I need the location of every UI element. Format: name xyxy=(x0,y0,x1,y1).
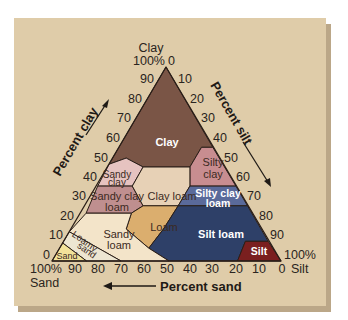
svg-text:80: 80 xyxy=(91,262,105,276)
label-silty-clay-2: clay xyxy=(203,168,223,180)
svg-text:40: 40 xyxy=(213,131,227,145)
svg-text:80: 80 xyxy=(259,209,273,223)
svg-text:10: 10 xyxy=(49,228,63,242)
svg-text:10: 10 xyxy=(178,72,192,86)
svg-text:30: 30 xyxy=(72,189,86,203)
corner-clay-percent: 100% xyxy=(133,54,165,68)
soil-texture-triangle: Clay Silty clay Sandy clay Sandy clay lo… xyxy=(0,0,348,320)
sand-axis-ticks: 90 80 70 60 50 40 30 20 10 0 xyxy=(68,262,285,276)
label-silty-clay-loam-2: loam xyxy=(206,197,231,209)
arrow-down-icon xyxy=(264,178,271,187)
corner-clay-name: Clay xyxy=(138,41,164,55)
svg-text:50: 50 xyxy=(94,151,108,165)
svg-text:0: 0 xyxy=(43,248,50,262)
label-sand: Sand xyxy=(56,251,77,261)
corner-sand-percent: 100% xyxy=(30,262,62,276)
label-silt-loam: Silt loam xyxy=(198,228,244,240)
svg-text:50: 50 xyxy=(224,151,238,165)
svg-text:50: 50 xyxy=(160,262,174,276)
svg-text:30: 30 xyxy=(201,111,215,125)
percent-sand-title: Percent sand xyxy=(160,279,242,294)
svg-text:60: 60 xyxy=(236,170,250,184)
corner-sand-name: Sand xyxy=(30,276,59,290)
apex-tick: 0 xyxy=(168,54,175,68)
corner-silt-percent: 100% xyxy=(284,248,316,262)
svg-text:40: 40 xyxy=(83,170,97,184)
arrow-left-icon xyxy=(103,282,112,290)
label-silty-clay: Silty xyxy=(203,156,224,168)
svg-text:10: 10 xyxy=(252,262,266,276)
percent-clay-axis: Percent clay xyxy=(50,99,109,179)
corner-silt-name: Silt xyxy=(291,262,309,276)
svg-text:70: 70 xyxy=(247,189,261,203)
svg-text:60: 60 xyxy=(137,262,151,276)
svg-text:90: 90 xyxy=(140,72,154,86)
svg-text:70: 70 xyxy=(114,262,128,276)
svg-text:20: 20 xyxy=(190,92,204,106)
svg-text:80: 80 xyxy=(128,92,142,106)
svg-text:60: 60 xyxy=(106,131,120,145)
label-silt: Silt xyxy=(251,245,268,257)
svg-text:20: 20 xyxy=(60,209,74,223)
label-clay: Clay xyxy=(155,136,179,148)
label-sandy-clay-2: clay xyxy=(108,177,126,188)
svg-text:20: 20 xyxy=(229,262,243,276)
svg-text:40: 40 xyxy=(183,262,197,276)
label-sandy-clay-loam-2: loam xyxy=(105,201,129,213)
label-sandy-loam-2: loam xyxy=(107,239,131,251)
label-clay-loam: Clay loam xyxy=(148,190,197,202)
arrow-up-icon xyxy=(102,99,109,108)
svg-text:90: 90 xyxy=(68,262,82,276)
svg-text:90: 90 xyxy=(270,228,284,242)
label-loam: Loam xyxy=(150,221,178,233)
svg-text:70: 70 xyxy=(117,111,131,125)
svg-text:0: 0 xyxy=(279,262,286,276)
percent-sand-axis: Percent sand xyxy=(103,279,242,294)
percent-clay-title: Percent clay xyxy=(50,104,102,179)
svg-text:30: 30 xyxy=(205,262,219,276)
